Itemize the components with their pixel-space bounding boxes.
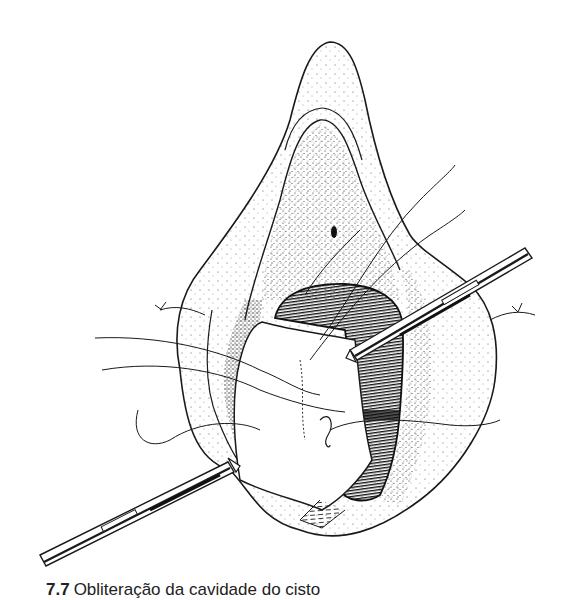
figure-number: 7.7 (46, 580, 70, 599)
caption-text: Obliteração da cavidade do cisto (74, 580, 321, 599)
figure-caption: 7.7Obliteração da cavidade do cisto (46, 580, 320, 600)
needle-holder-lower-left (40, 458, 240, 566)
